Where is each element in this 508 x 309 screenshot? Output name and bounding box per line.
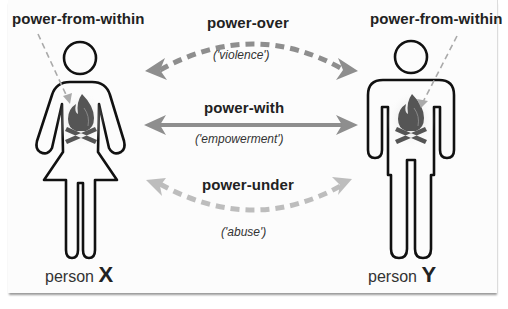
power-over-subtitle: ('violence') xyxy=(213,48,270,62)
power-over-label: power-over xyxy=(207,14,289,31)
person-y-prefix: person xyxy=(368,268,417,285)
power-under-label: power-under xyxy=(202,176,294,193)
power-from-within-label-y: power-from-within xyxy=(370,10,503,27)
fire-icon xyxy=(387,90,435,150)
person-x-letter: X xyxy=(98,262,113,287)
power-under-subtitle: ('abuse') xyxy=(221,225,266,239)
power-with-label: power-with xyxy=(204,99,284,116)
fire-icon xyxy=(57,90,105,150)
person-y-letter: Y xyxy=(421,262,436,287)
power-with-subtitle: ('empowerment') xyxy=(195,132,284,146)
person-x-label: person X xyxy=(45,262,113,288)
person-y-label: person Y xyxy=(368,262,436,288)
person-x-prefix: person xyxy=(45,268,94,285)
woman-figure-icon xyxy=(36,42,124,258)
power-from-within-label-x: power-from-within xyxy=(12,10,145,27)
